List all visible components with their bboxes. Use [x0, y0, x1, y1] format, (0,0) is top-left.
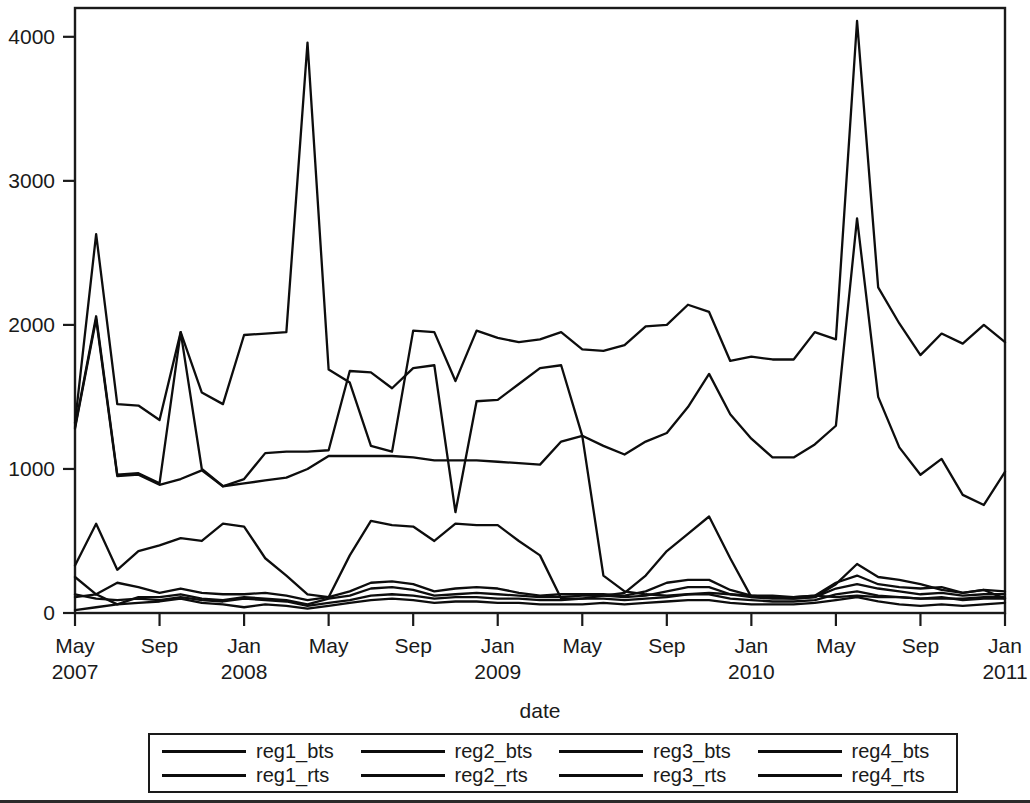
legend-label: reg3_rts	[653, 764, 726, 786]
legend-entry-reg1-bts[interactable]: reg1_bts	[156, 739, 355, 763]
x-tick-label-month: May	[309, 634, 349, 657]
legend-line-icon	[758, 774, 842, 777]
legend-label: reg3_bts	[653, 740, 731, 762]
y-axis-tick-labels: 01000200030004000	[8, 25, 55, 624]
legend-label: reg4_rts	[852, 764, 925, 786]
x-tick-label-month: Jan	[734, 634, 768, 657]
x-tick-label-year: 2011	[982, 660, 1027, 683]
x-tick-label-month: Jan	[227, 634, 261, 657]
x-tick-label-month: May	[816, 634, 856, 657]
legend-label: reg1_bts	[256, 740, 334, 762]
y-tick-label: 4000	[8, 25, 55, 48]
x-tick-label-year: 2009	[474, 660, 521, 683]
legend-line-icon	[559, 774, 643, 777]
series-line-reg1-bts	[75, 21, 1005, 452]
x-tick-label-year: 2007	[52, 660, 99, 683]
legend-row-rts: reg1_rts reg2_rts reg3_rts reg4_rts	[156, 763, 950, 787]
line-chart-plot: 01000200030004000 May2007SepJan2008MaySe…	[0, 0, 1030, 803]
series-lines	[75, 21, 1005, 610]
y-tick-label: 0	[43, 601, 55, 624]
y-tick-label: 3000	[8, 169, 55, 192]
legend-entry-reg2-rts[interactable]: reg2_rts	[355, 763, 554, 787]
x-tick-label-month: Sep	[141, 634, 178, 657]
x-tick-label-month: Sep	[394, 634, 431, 657]
legend-entry-reg1-rts[interactable]: reg1_rts	[156, 763, 355, 787]
chart-legend: reg1_bts reg2_bts reg3_bts reg4_bts reg1…	[148, 733, 958, 793]
legend-entry-reg3-bts[interactable]: reg3_bts	[553, 739, 752, 763]
legend-entry-reg4-rts[interactable]: reg4_rts	[752, 763, 951, 787]
x-tick-label-month: Sep	[902, 634, 939, 657]
legend-line-icon	[361, 774, 445, 777]
y-tick-label: 1000	[8, 457, 55, 480]
x-axis-ticks	[75, 613, 1005, 626]
x-axis-title: date	[520, 699, 561, 722]
legend-label: reg2_bts	[455, 740, 533, 762]
x-tick-label-month: May	[562, 634, 602, 657]
y-tick-label: 2000	[8, 313, 55, 336]
legend-entry-reg4-bts[interactable]: reg4_bts	[752, 739, 951, 763]
x-tick-label-year: 2010	[728, 660, 775, 683]
x-tick-label-month: Sep	[648, 634, 685, 657]
legend-row-bts: reg1_bts reg2_bts reg3_bts reg4_bts	[156, 739, 950, 763]
x-tick-label-month: May	[55, 634, 95, 657]
legend-label: reg4_bts	[852, 740, 930, 762]
legend-line-icon	[162, 774, 246, 777]
legend-label: reg2_rts	[455, 764, 528, 786]
legend-line-icon	[758, 750, 842, 753]
x-tick-label-month: Jan	[481, 634, 515, 657]
chart-figure: 01000200030004000 May2007SepJan2008MaySe…	[0, 0, 1030, 803]
x-tick-label-year: 2008	[221, 660, 268, 683]
legend-label: reg1_rts	[256, 764, 329, 786]
series-line-reg2-bts	[75, 218, 1005, 512]
legend-line-icon	[162, 750, 246, 753]
x-axis-tick-labels: May2007SepJan2008MaySepJan2009MaySepJan2…	[52, 634, 1028, 683]
legend-line-icon	[361, 750, 445, 753]
legend-entry-reg2-bts[interactable]: reg2_bts	[355, 739, 554, 763]
plot-frame	[75, 8, 1005, 613]
y-axis-ticks	[63, 37, 75, 613]
legend-line-icon	[559, 750, 643, 753]
x-tick-label-month: Jan	[988, 634, 1022, 657]
legend-entry-reg3-rts[interactable]: reg3_rts	[553, 763, 752, 787]
